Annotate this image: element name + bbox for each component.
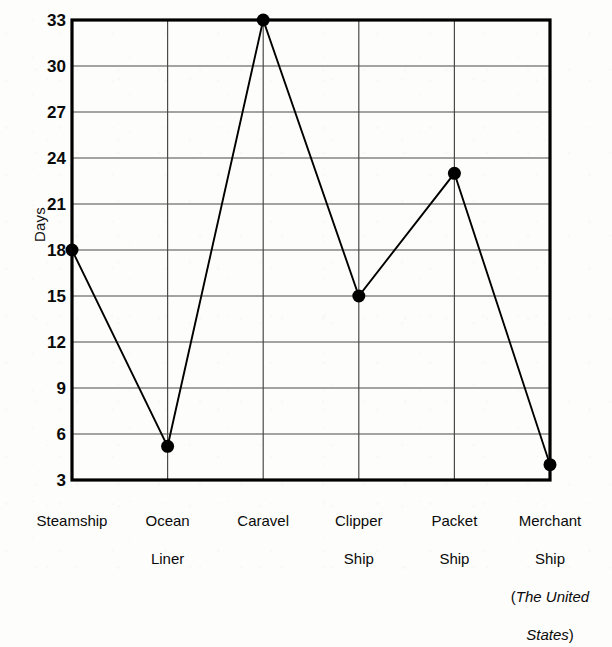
x-tick-label-note-line: States) <box>480 625 612 644</box>
italic-ship-name-part2: States <box>526 626 569 643</box>
paren-close: ) <box>569 626 574 643</box>
x-tick-label-line: Merchant <box>480 511 612 530</box>
x-tick-label-merchant-ship: Merchant Ship (The United States) <box>480 492 612 647</box>
x-tick-label-line: Liner <box>98 549 238 568</box>
italic-ship-name-part1: The United <box>516 588 589 605</box>
x-tick-label-line: Ship <box>480 549 612 568</box>
x-tick-label-note-line: (The United <box>480 587 612 606</box>
